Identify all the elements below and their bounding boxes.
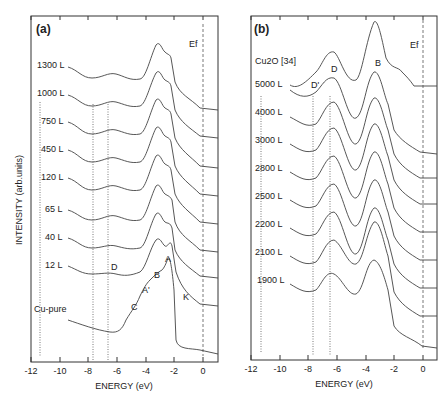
label-5000l: 5000 L	[255, 79, 283, 89]
label-450l: 450 L	[41, 144, 64, 154]
panel-a: (a) Ef 1300 L 1000 L 750 L 450 L 120 L 6…	[24, 16, 218, 391]
label-750l: 750 L	[41, 116, 64, 126]
svg-text:D': D'	[311, 80, 319, 90]
panel-b-ef-label: Ef	[410, 40, 419, 50]
svg-text:B: B	[375, 58, 381, 68]
svg-text:B: B	[154, 270, 160, 280]
label-cu-pure: Cu-pure	[34, 304, 67, 314]
svg-text:-6: -6	[333, 364, 341, 374]
label-2100l: 2100 L	[255, 247, 283, 257]
panel-a-xlabel: ENERGY (eV)	[95, 381, 152, 391]
svg-text:-2: -2	[170, 366, 178, 376]
svg-text:-12: -12	[244, 364, 257, 374]
svg-text:0: 0	[200, 366, 205, 376]
svg-text:0: 0	[420, 364, 425, 374]
svg-text:-6: -6	[113, 366, 121, 376]
panel-b-xlabel: ENERGY (eV)	[315, 379, 372, 389]
svg-text:A: A	[165, 254, 171, 264]
svg-text:-4: -4	[362, 364, 370, 374]
panel-b: (b) Ef Cu2O [34] 5000 L 4000 L 3000 L 28…	[244, 16, 437, 389]
label-2800l: 2800 L	[255, 163, 283, 173]
label-1300l: 1300 L	[37, 60, 65, 70]
label-40l: 40 L	[45, 232, 63, 242]
svg-text:-4: -4	[142, 366, 150, 376]
panel-a-ef-label: Ef	[189, 39, 198, 49]
label-3000l: 3000 L	[255, 135, 283, 145]
svg-text:D: D	[331, 64, 338, 74]
label-12l: 12 L	[45, 260, 63, 270]
svg-text:-8: -8	[84, 366, 92, 376]
svg-text:D: D	[111, 262, 118, 272]
panel-a-peak-annotations: D A B A' C K	[111, 254, 189, 312]
label-2200l: 2200 L	[255, 219, 283, 229]
label-2500l: 2500 L	[255, 191, 283, 201]
svg-text:-12: -12	[24, 366, 37, 376]
y-axis-label: INTENSITY (arb.units)	[14, 155, 24, 245]
svg-text:-10: -10	[273, 364, 286, 374]
svg-text:-10: -10	[53, 366, 66, 376]
panel-b-xticks: -12-10-8 -6-4-20	[244, 364, 425, 374]
label-4000l: 4000 L	[255, 107, 283, 117]
svg-text:-8: -8	[304, 364, 312, 374]
svg-text:A': A'	[142, 285, 150, 295]
panel-b-label: (b)	[254, 22, 269, 36]
panel-b-series-labels: 5000 L 4000 L 3000 L 2800 L 2500 L 2200 …	[255, 79, 285, 285]
panel-a-label: (a)	[36, 22, 51, 36]
svg-text:-2: -2	[390, 364, 398, 374]
panel-b-reference-label: Cu2O [34]	[255, 56, 296, 66]
label-65l: 65 L	[45, 204, 63, 214]
panel-b-spectra	[290, 22, 437, 348]
panel-a-series-labels: 1300 L 1000 L 750 L 450 L 120 L 65 L 40 …	[34, 60, 67, 314]
svg-text:K: K	[183, 292, 189, 302]
panel-a-spectra	[68, 44, 218, 354]
svg-text:C: C	[131, 302, 138, 312]
panel-b-frame	[251, 16, 437, 360]
label-120l: 120 L	[41, 172, 64, 182]
label-1000l: 1000 L	[37, 88, 65, 98]
label-1900l: 1900 L	[257, 275, 285, 285]
panel-a-xticks: -12-10-8 -6-4-20	[24, 366, 205, 376]
figure: (a) Ef 1300 L 1000 L 750 L 450 L 120 L 6…	[0, 0, 448, 402]
